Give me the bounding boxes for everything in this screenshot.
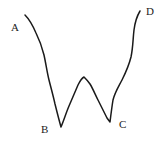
point-label-c: C bbox=[119, 119, 126, 130]
point-label-d: D bbox=[146, 6, 154, 17]
w-curve-diagram bbox=[0, 0, 161, 141]
point-label-a: A bbox=[11, 22, 19, 33]
point-label-b: B bbox=[41, 124, 48, 135]
w-curve-path bbox=[25, 11, 140, 127]
